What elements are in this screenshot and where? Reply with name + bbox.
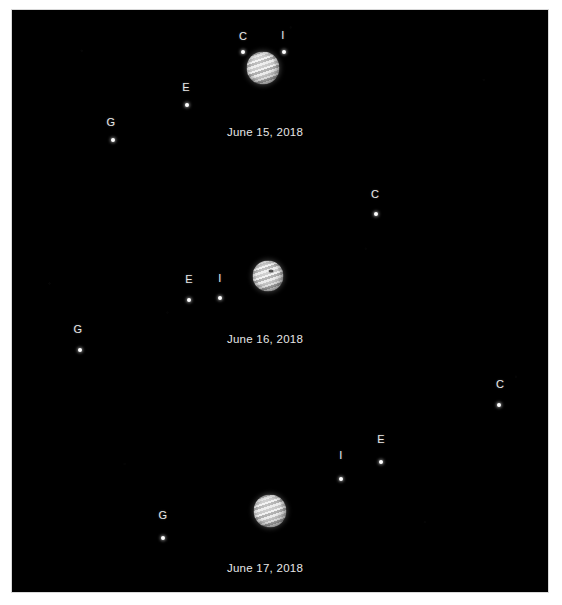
moon-label-e: E	[377, 434, 385, 445]
moon-dot-g	[161, 536, 165, 540]
moon-dot-e	[379, 460, 383, 464]
observation-panel: CEIGJune 17, 2018	[12, 10, 548, 592]
jupiter-moons-figure: CIEGJune 15, 2018CEIGJune 16, 2018CEIGJu…	[0, 0, 562, 605]
moon-dot-i	[339, 477, 343, 481]
sky-panel: CIEGJune 15, 2018CEIGJune 16, 2018CEIGJu…	[12, 10, 548, 592]
jupiter-disk	[254, 495, 287, 528]
observation-date-label: June 17, 2018	[227, 563, 303, 575]
moon-dot-c	[497, 403, 501, 407]
moon-label-c: C	[496, 379, 504, 390]
moon-label-g: G	[159, 510, 168, 521]
moon-label-i: I	[339, 450, 342, 461]
